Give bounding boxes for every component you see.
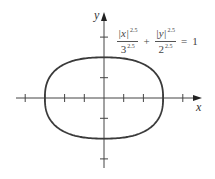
exponent: 2.5 bbox=[165, 43, 173, 49]
exponent: 2.5 bbox=[168, 27, 176, 33]
numerator-x: |x| bbox=[118, 27, 129, 39]
equation: |x|2.5 32.5 + |y|2.5 22.5 = 1 bbox=[117, 27, 198, 55]
plus-sign: + bbox=[143, 35, 149, 47]
equals-sign: = bbox=[181, 35, 187, 47]
equation-term-x: |x|2.5 32.5 bbox=[117, 27, 138, 55]
denominator-2: 2 bbox=[158, 43, 164, 55]
numerator-y: |y| bbox=[156, 27, 167, 39]
equation-term-y: |y|2.5 22.5 bbox=[155, 27, 176, 55]
denominator-3: 3 bbox=[121, 43, 127, 55]
equation-rhs: 1 bbox=[192, 35, 198, 47]
y-axis-label: y bbox=[94, 9, 99, 21]
exponent: 2.5 bbox=[127, 43, 135, 49]
x-axis-label: x bbox=[196, 101, 201, 113]
exponent: 2.5 bbox=[130, 27, 138, 33]
y-axis-arrow-icon bbox=[101, 12, 107, 21]
